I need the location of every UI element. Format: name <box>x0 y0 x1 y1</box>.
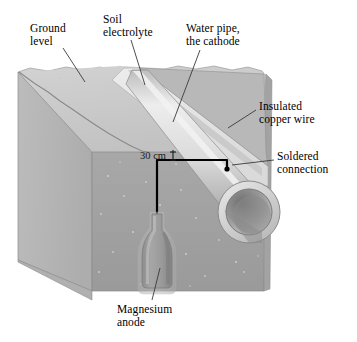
label-insulated-copper-wire: Insulated copper wire <box>259 100 315 125</box>
label-soldered-connection: Soldered connection <box>277 150 328 175</box>
label-water-pipe-cathode: Water pipe, the cathode <box>186 22 240 47</box>
cathodic-protection-diagram: Ground level Soil electrolyte Water pipe… <box>0 0 357 342</box>
label-soil-electrolyte: Soil electrolyte <box>103 13 153 38</box>
label-ground-level: Ground level <box>30 22 66 47</box>
label-depth-dimension: 30 cm <box>140 150 166 161</box>
soldered-connection-point <box>224 166 229 171</box>
label-magnesium-anode: Magnesium anode <box>117 303 172 328</box>
